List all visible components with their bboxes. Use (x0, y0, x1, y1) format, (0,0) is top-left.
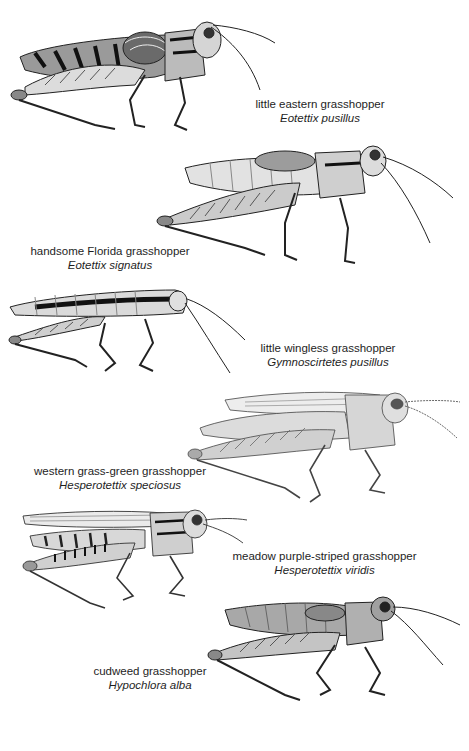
grasshopper-illustration-little-wingless (5, 285, 250, 375)
scientific-name: Hesperotettix speciosus (20, 478, 220, 492)
grasshopper-illustration-western-grass-green (185, 390, 465, 510)
species-label-cudweed: cudweed grasshopper Hypochlora alba (70, 664, 230, 692)
species-plate: little eastern grasshopper Eotettix pusi… (0, 0, 469, 751)
common-name: handsome Florida grasshopper (10, 244, 210, 258)
common-name: little eastern grasshopper (220, 97, 420, 111)
scientific-name: Hesperotettix viridis (222, 563, 427, 577)
species-label-little-eastern: little eastern grasshopper Eotettix pusi… (220, 97, 420, 125)
common-name: cudweed grasshopper (70, 664, 230, 678)
species-label-handsome-florida: handsome Florida grasshopper Eotettix si… (10, 244, 210, 272)
common-name: western grass-green grasshopper (20, 464, 220, 478)
scientific-name: Eotettix signatus (10, 258, 210, 272)
scientific-name: Eotettix pusillus (220, 111, 420, 125)
common-name: little wingless grasshopper (238, 341, 418, 355)
scientific-name: Hypochlora alba (70, 678, 230, 692)
species-label-meadow-purple-striped: meadow purple-striped grasshopper Hesper… (222, 549, 427, 577)
species-label-little-wingless: little wingless grasshopper Gymnoscirtet… (238, 341, 418, 369)
grasshopper-illustration-cudweed (205, 595, 465, 715)
common-name: meadow purple-striped grasshopper (222, 549, 427, 563)
species-label-western-grass-green: western grass-green grasshopper Hesperot… (20, 464, 220, 492)
plate-caption-clipped (0, 742, 469, 751)
scientific-name: Gymnoscirtetes pusillus (238, 355, 418, 369)
